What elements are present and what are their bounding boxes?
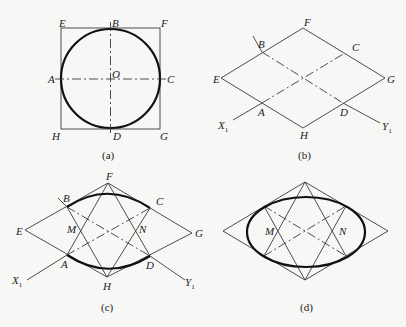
label-e: E [59, 18, 66, 29]
label-o: O [112, 69, 120, 80]
label-y1: Y1 [382, 121, 392, 135]
arc-ad [67, 255, 150, 269]
y1-axis-end [150, 256, 185, 280]
label-x1: X1 [12, 275, 22, 289]
label-m: M [67, 224, 76, 235]
label-y1: Y1 [185, 277, 195, 291]
x-axis-centerline [67, 208, 150, 255]
panel-d-drawing [223, 182, 388, 280]
x-axis-centerline [262, 53, 345, 103]
line-bottom-left [264, 206, 305, 280]
label-c: C [156, 196, 163, 207]
label-g: G [387, 74, 395, 85]
label-b: B [112, 18, 119, 29]
panel-b-drawing [221, 28, 385, 128]
panel-c-drawing [25, 183, 192, 280]
label-h: H [52, 131, 60, 142]
label-n: N [339, 226, 346, 237]
label-b: B [63, 193, 70, 204]
label-h: H [103, 281, 111, 292]
caption-b: (b) [298, 150, 311, 161]
y1-axis-end [343, 103, 380, 123]
label-c: C [167, 74, 174, 85]
rhombus-efgh [25, 183, 192, 277]
label-x1: X1 [218, 120, 228, 134]
caption-c: (c) [101, 302, 113, 313]
label-f: F [161, 18, 168, 29]
label-m: M [265, 226, 274, 237]
label-e: E [213, 74, 220, 85]
label-g: G [160, 131, 168, 142]
four-center-ellipse-figure: E B F A O C H D G (a) F B C E G A D X1 H… [0, 0, 406, 327]
caption-d: (d) [300, 302, 313, 313]
label-a: A [258, 107, 265, 118]
label-f: F [304, 17, 311, 28]
label-d: D [113, 131, 121, 142]
label-h: H [300, 130, 308, 141]
label-f: F [106, 171, 113, 182]
label-n: N [139, 224, 146, 235]
y-axis-centerline [262, 52, 343, 103]
label-b: B [258, 39, 265, 50]
label-d: D [146, 260, 154, 271]
arc-bc [67, 194, 150, 208]
label-g: G [195, 228, 203, 239]
line-top-left [264, 182, 305, 256]
label-a: A [61, 259, 68, 270]
line-hb [67, 207, 107, 277]
caption-a: (a) [102, 150, 114, 161]
label-d: D [340, 107, 348, 118]
label-a: A [48, 74, 55, 85]
line-top-right [305, 182, 346, 256]
label-c: C [352, 42, 359, 53]
figure-drawing [0, 0, 406, 327]
line-bottom-right [305, 206, 346, 280]
label-e: E [16, 226, 23, 237]
